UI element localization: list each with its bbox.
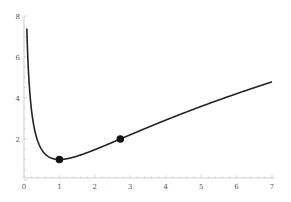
curve-line <box>27 29 272 160</box>
x-tick-label: 6 <box>234 183 239 191</box>
y-tick-label: 4 <box>16 95 21 103</box>
data-point <box>116 135 124 143</box>
x-tick-label: 2 <box>93 183 97 191</box>
x-tick-label: 5 <box>199 183 203 191</box>
y-tick-label: 2 <box>16 136 20 144</box>
y-tick-label: 8 <box>16 13 20 21</box>
data-point <box>56 156 64 164</box>
plot-area: 012345672468 <box>0 0 291 202</box>
x-tick-label: 3 <box>128 183 132 191</box>
x-tick-label: 7 <box>270 183 274 191</box>
y-tick-label: 6 <box>16 54 21 62</box>
x-tick-label: 4 <box>163 183 168 191</box>
x-tick-label: 0 <box>22 183 26 191</box>
x-tick-label: 1 <box>57 183 61 191</box>
